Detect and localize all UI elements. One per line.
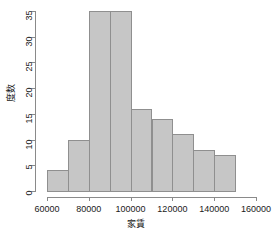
y-axis-tick-label: 10: [25, 139, 34, 149]
x-axis-tick-label: 80000: [76, 204, 101, 214]
x-axis-tick-label: 100000: [116, 204, 146, 214]
histogram-chart: 05101520253035 度数 6000080000100000120000…: [0, 0, 272, 236]
y-axis-tick-label: 5: [25, 165, 34, 170]
histogram-bar: [152, 119, 174, 192]
x-axis-tick: [89, 197, 90, 201]
x-axis-title: 家賃: [0, 219, 272, 229]
y-axis-tick-label: 35: [25, 11, 34, 21]
y-axis-title: 度数: [6, 84, 16, 102]
histogram-bar: [89, 11, 111, 192]
histogram-bar: [172, 134, 194, 192]
y-axis-tick-labels: 05101520253035: [0, 0, 29, 236]
y-axis-tick-label: 30: [25, 36, 34, 46]
y-axis-tick-label: 0: [25, 191, 34, 196]
y-axis-tick-label: 25: [25, 62, 34, 72]
y-axis-tick-label: 15: [25, 113, 34, 123]
x-axis-line: [47, 197, 256, 198]
histogram-bar: [193, 150, 215, 192]
x-axis-tick-label: 60000: [34, 204, 59, 214]
x-axis-tick: [256, 197, 257, 201]
x-axis-tick-label: 140000: [199, 204, 229, 214]
histogram-bar: [110, 11, 132, 192]
histogram-bars: [36, 6, 266, 192]
y-axis-tick-label: 20: [25, 88, 34, 98]
x-axis-tick: [131, 197, 132, 201]
x-axis-tick: [214, 197, 215, 201]
histogram-bar: [68, 140, 90, 192]
x-axis-tick: [172, 197, 173, 201]
x-axis-tick-label: 160000: [241, 204, 271, 214]
histogram-bar: [131, 109, 153, 192]
x-axis-tick: [47, 197, 48, 201]
x-axis-tick-label: 120000: [157, 204, 187, 214]
histogram-bar: [47, 170, 69, 192]
histogram-bar: [214, 155, 236, 192]
